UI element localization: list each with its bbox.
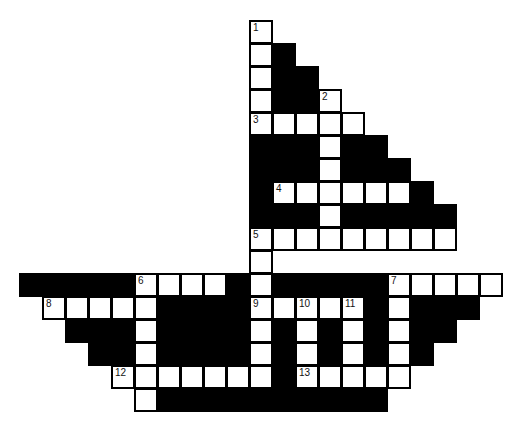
crossword-cell[interactable]	[318, 112, 342, 136]
clue-number: 2	[322, 91, 328, 103]
crossword-block	[364, 135, 388, 159]
crossword-cell[interactable]	[387, 296, 411, 320]
crossword-cell[interactable]	[134, 388, 158, 412]
crossword-cell[interactable]	[295, 112, 319, 136]
crossword-cell[interactable]	[295, 181, 319, 205]
crossword-cell[interactable]	[341, 365, 365, 389]
crossword-cell[interactable]	[249, 273, 273, 297]
crossword-cell[interactable]	[65, 296, 89, 320]
crossword-block	[272, 365, 296, 389]
crossword-block	[203, 342, 227, 366]
crossword-cell[interactable]	[249, 365, 273, 389]
crossword-cell[interactable]	[272, 112, 296, 136]
crossword-cell[interactable]	[226, 365, 250, 389]
crossword-cell[interactable]	[134, 342, 158, 366]
crossword-cell[interactable]	[203, 273, 227, 297]
crossword-cell[interactable]	[341, 112, 365, 136]
crossword-cell[interactable]	[249, 250, 273, 274]
crossword-block	[433, 204, 457, 228]
crossword-cell[interactable]	[134, 296, 158, 320]
crossword-cell[interactable]	[318, 181, 342, 205]
crossword-cell[interactable]	[410, 227, 434, 251]
crossword-cell[interactable]	[456, 273, 480, 297]
crossword-block	[88, 273, 112, 297]
crossword-cell[interactable]	[134, 365, 158, 389]
crossword-block	[364, 296, 388, 320]
crossword-cell[interactable]: 10	[295, 296, 319, 320]
crossword-cell[interactable]	[157, 273, 181, 297]
crossword-cell[interactable]	[318, 365, 342, 389]
crossword-cell[interactable]	[272, 227, 296, 251]
crossword-cell[interactable]	[295, 319, 319, 343]
crossword-block	[249, 204, 273, 228]
crossword-block	[387, 204, 411, 228]
crossword-cell[interactable]	[318, 158, 342, 182]
crossword-cell[interactable]	[387, 181, 411, 205]
crossword-cell[interactable]: 4	[272, 181, 296, 205]
crossword-block	[226, 296, 250, 320]
crossword-cell[interactable]: 1	[249, 20, 273, 44]
crossword-block	[203, 296, 227, 320]
crossword-cell[interactable]	[364, 181, 388, 205]
crossword-block	[456, 296, 480, 320]
crossword-block	[272, 43, 296, 67]
crossword-block	[42, 273, 66, 297]
crossword-cell[interactable]	[249, 319, 273, 343]
crossword-block	[180, 342, 204, 366]
crossword-cell[interactable]: 11	[341, 296, 365, 320]
crossword-cell[interactable]: 12	[111, 365, 135, 389]
crossword-cell[interactable]	[341, 181, 365, 205]
crossword-cell[interactable]	[203, 365, 227, 389]
crossword-cell[interactable]	[295, 342, 319, 366]
crossword-cell[interactable]: 5	[249, 227, 273, 251]
crossword-cell[interactable]	[295, 227, 319, 251]
clue-number: 11	[345, 298, 355, 310]
crossword-cell[interactable]	[272, 296, 296, 320]
crossword-cell[interactable]	[479, 273, 503, 297]
crossword-cell[interactable]	[249, 43, 273, 67]
crossword-cell[interactable]	[410, 273, 434, 297]
crossword-cell[interactable]: 3	[249, 112, 273, 136]
crossword-cell[interactable]	[249, 342, 273, 366]
crossword-cell[interactable]	[134, 319, 158, 343]
crossword-cell[interactable]	[180, 273, 204, 297]
crossword-cell[interactable]	[318, 204, 342, 228]
crossword-block	[318, 319, 342, 343]
crossword-cell[interactable]	[341, 319, 365, 343]
crossword-cell[interactable]	[364, 365, 388, 389]
crossword-cell[interactable]	[157, 365, 181, 389]
crossword-cell[interactable]	[88, 296, 112, 320]
crossword-cell[interactable]	[318, 296, 342, 320]
crossword-cell[interactable]	[249, 89, 273, 113]
crossword-cell[interactable]: 2	[318, 89, 342, 113]
crossword-cell[interactable]	[318, 227, 342, 251]
crossword-cell[interactable]	[180, 365, 204, 389]
crossword-block	[65, 273, 89, 297]
crossword-block	[295, 66, 319, 90]
crossword-block	[410, 204, 434, 228]
crossword-cell[interactable]	[111, 296, 135, 320]
crossword-cell[interactable]: 8	[42, 296, 66, 320]
crossword-cell[interactable]	[433, 273, 457, 297]
crossword-cell[interactable]	[318, 135, 342, 159]
crossword-block	[295, 89, 319, 113]
crossword-block	[272, 342, 296, 366]
clue-number: 7	[391, 275, 397, 287]
clue-number: 5	[253, 229, 259, 241]
crossword-cell[interactable]	[387, 319, 411, 343]
crossword-cell[interactable]	[387, 227, 411, 251]
crossword-cell[interactable]	[341, 227, 365, 251]
crossword-cell[interactable]	[341, 342, 365, 366]
crossword-block	[180, 319, 204, 343]
crossword-cell[interactable]	[364, 227, 388, 251]
crossword-cell[interactable]	[433, 227, 457, 251]
crossword-cell[interactable]	[387, 365, 411, 389]
crossword-block	[272, 319, 296, 343]
crossword-cell[interactable]: 13	[295, 365, 319, 389]
crossword-block	[295, 273, 319, 297]
crossword-cell[interactable]: 6	[134, 273, 158, 297]
crossword-cell[interactable]: 9	[249, 296, 273, 320]
crossword-cell[interactable]	[249, 66, 273, 90]
crossword-cell[interactable]: 7	[387, 273, 411, 297]
crossword-cell[interactable]	[387, 342, 411, 366]
